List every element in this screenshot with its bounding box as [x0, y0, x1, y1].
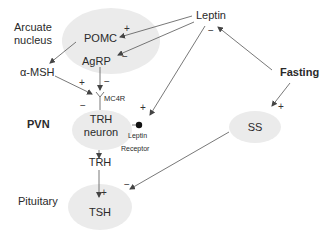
arrow-leptin-receptor	[150, 26, 205, 115]
sign-agrp-mc4r: −	[104, 77, 110, 87]
sign-leptin-receptor: +	[140, 103, 146, 113]
arrow-msh-mc4r	[55, 76, 92, 94]
node-leptin-receptor-line2: Receptor	[121, 145, 149, 153]
node-agrp: AgRP	[82, 55, 111, 67]
region-arcuate-line1: Arcuate	[14, 21, 52, 33]
node-pomc: POMC	[84, 32, 117, 44]
sign-trh-tsh: +	[101, 188, 107, 198]
sign-ss-tsh: −	[124, 180, 130, 190]
node-fasting: Fasting	[280, 66, 319, 78]
node-ss: SS	[248, 121, 263, 133]
node-mc4r: MC4R	[104, 95, 125, 103]
arrow-ss-tsh	[130, 132, 229, 189]
region-pituitary: Pituitary	[18, 195, 58, 207]
node-trh-neuron-line1: TRH	[90, 113, 113, 125]
arrow-leptin-pomc	[120, 16, 192, 37]
sign-leptin-pomc: +	[124, 24, 130, 34]
node-alpha-msh: α-MSH	[20, 66, 54, 78]
leptin-receptor-dot	[136, 122, 142, 128]
mc4r-arm-left	[96, 92, 100, 97]
region-arcuate-line2: nucleus	[14, 34, 52, 46]
node-leptin: Leptin	[196, 9, 226, 21]
arrow-pomc-msh	[50, 42, 76, 63]
node-leptin-receptor-line1: Leptin	[128, 132, 147, 140]
arrow-fasting-leptin	[218, 27, 272, 70]
sign-msh-mc4r: +	[79, 78, 85, 88]
sign-leptin-agrp: −	[122, 52, 128, 62]
node-trh: TRH	[89, 156, 112, 168]
node-tsh: TSH	[89, 206, 111, 218]
sign-leptin-minus: −	[208, 26, 214, 36]
diagram-canvas: Arcuate nucleus PVN Pituitary POMC AgRP …	[0, 0, 332, 236]
sign-fasting-ss: +	[278, 102, 284, 112]
node-trh-neuron-line2: neuron	[84, 126, 118, 138]
sign-mc4r-minus: −	[80, 101, 86, 111]
region-pvn: PVN	[27, 118, 50, 130]
